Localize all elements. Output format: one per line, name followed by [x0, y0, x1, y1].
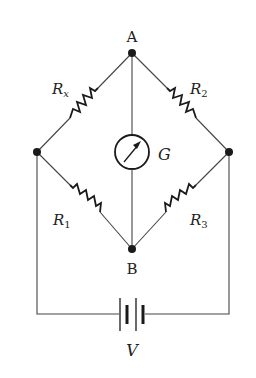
label-r1: R1	[52, 211, 71, 230]
label-node-a: A	[126, 28, 138, 46]
node-left	[33, 148, 41, 156]
node-a	[128, 49, 136, 57]
node-b	[128, 245, 136, 253]
resistor-r2	[132, 53, 229, 152]
wheatstone-bridge-diagram: A B Rx R2 R1 R3 G V	[0, 0, 256, 378]
label-r2: R2	[189, 80, 208, 99]
label-node-b: B	[126, 260, 137, 278]
resistor-rx	[37, 53, 132, 152]
resistor-r1	[37, 152, 132, 249]
battery	[120, 298, 143, 331]
label-galvanometer: G	[158, 145, 171, 164]
label-r3: R3	[189, 211, 208, 230]
galvanometer	[115, 53, 149, 249]
battery-loop	[37, 152, 229, 314]
label-battery: V	[126, 341, 139, 360]
resistor-r3	[132, 152, 229, 249]
label-rx: Rx	[51, 80, 69, 99]
node-right	[225, 148, 233, 156]
